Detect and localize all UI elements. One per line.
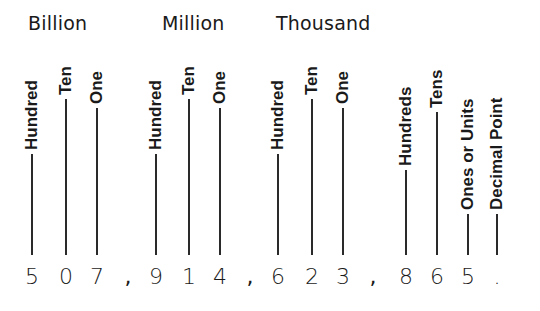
place-label: Hundred <box>147 80 164 150</box>
comma-separator: , <box>247 264 254 289</box>
leader-line <box>96 108 98 255</box>
leader-line <box>188 99 190 255</box>
leader-line <box>65 99 67 255</box>
place-label: Ones or Units <box>459 99 476 210</box>
leader-line <box>405 170 407 255</box>
leader-line <box>311 99 313 255</box>
place-label: Decimal Point <box>488 98 505 210</box>
leader-line <box>219 108 221 255</box>
place-label: Ten <box>180 66 197 95</box>
digit: 9 <box>149 264 163 289</box>
place-label: Hundred <box>23 80 40 150</box>
leader-line <box>436 112 438 255</box>
group-title-thousand: Thousand <box>276 12 371 34</box>
digit: 3 <box>336 264 350 289</box>
digit: 5 <box>461 264 475 289</box>
group-title-million: Million <box>162 12 225 34</box>
digit: 2 <box>305 264 319 289</box>
leader-line <box>155 154 157 255</box>
place-label: One <box>211 71 228 104</box>
leader-line <box>31 154 33 255</box>
leader-line <box>467 214 469 255</box>
place-label: One <box>88 71 105 104</box>
comma-separator: , <box>370 264 377 289</box>
place-label: Ten <box>303 66 320 95</box>
digit: 7 <box>90 264 104 289</box>
digit: 1 <box>182 264 196 289</box>
place-label: Hundred <box>269 80 286 150</box>
digit: 6 <box>430 264 444 289</box>
leader-line <box>277 154 279 255</box>
digit: 6 <box>271 264 285 289</box>
place-label: Ten <box>57 66 74 95</box>
digit: 4 <box>213 264 227 289</box>
digit: 0 <box>59 264 73 289</box>
place-label: Tens <box>428 70 445 108</box>
place-label: One <box>334 71 351 104</box>
digit: 5 <box>25 264 39 289</box>
digit: 8 <box>399 264 413 289</box>
leader-line <box>496 214 498 255</box>
comma-separator: , <box>125 264 132 289</box>
group-title-billion: Billion <box>28 12 87 34</box>
place-label: Hundreds <box>397 87 414 166</box>
leader-line <box>342 108 344 255</box>
decimal-point: . <box>494 264 501 289</box>
